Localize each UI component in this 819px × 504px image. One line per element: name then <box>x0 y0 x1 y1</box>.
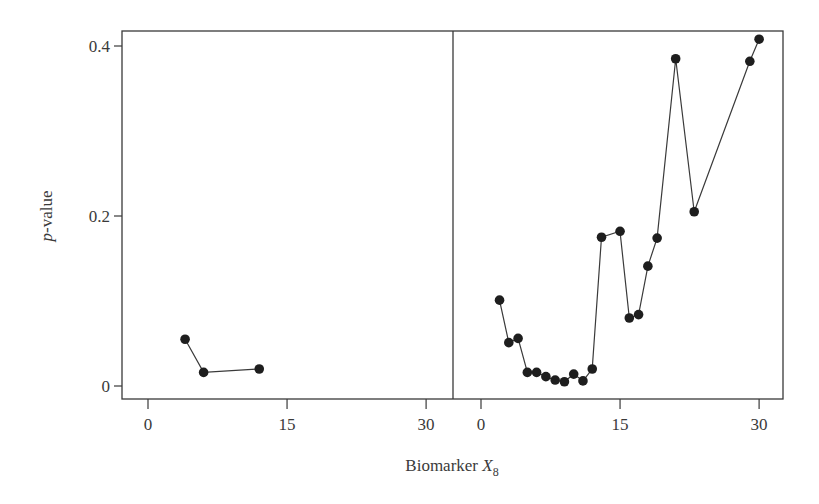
data-point <box>513 334 523 344</box>
data-point <box>523 368 533 378</box>
data-point <box>671 54 681 64</box>
x-axis: 0153001530 <box>144 399 768 434</box>
y-tick-label: 0.2 <box>89 207 110 226</box>
x-tick-label: 15 <box>612 415 629 434</box>
data-point <box>652 233 662 243</box>
x-tick-label: 30 <box>418 415 435 434</box>
data-point <box>560 377 570 387</box>
data-point <box>199 368 209 378</box>
data-point <box>597 232 607 242</box>
data-point <box>532 368 542 378</box>
x-axis-title: Biomarker X8 <box>405 456 498 479</box>
x-tick-label: 15 <box>279 415 296 434</box>
data-point <box>550 375 560 385</box>
series-line-left <box>185 339 259 372</box>
x-tick-label: 0 <box>477 415 486 434</box>
plot-frame <box>122 31 783 399</box>
data-point <box>634 310 644 320</box>
y-tick-label: 0 <box>102 377 111 396</box>
data-point <box>615 227 625 237</box>
data-point <box>254 364 264 374</box>
data-point <box>569 369 579 379</box>
data-point <box>643 261 653 271</box>
y-axis-title: p-value <box>37 191 56 243</box>
data-point <box>745 57 755 67</box>
data-point <box>587 364 597 374</box>
data-point <box>689 207 699 217</box>
x-tick-label: 0 <box>144 415 153 434</box>
data-point <box>541 372 551 382</box>
data-point <box>504 338 514 348</box>
data-point <box>625 313 635 323</box>
data-point <box>180 334 190 344</box>
series-line-right <box>500 39 760 382</box>
y-axis: 00.20.4 <box>89 37 122 396</box>
data-point <box>495 295 505 305</box>
chart-canvas: 00.20.4 0153001530 p-value Biomarker X8 <box>0 0 819 504</box>
x-tick-label: 30 <box>751 415 768 434</box>
data-series <box>180 34 764 386</box>
data-point <box>754 34 764 44</box>
y-tick-label: 0.4 <box>89 37 111 56</box>
data-point <box>578 376 588 386</box>
